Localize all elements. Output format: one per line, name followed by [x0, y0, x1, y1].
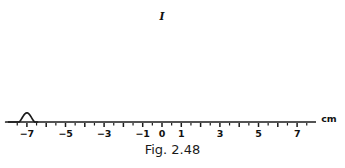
figure-caption: Fig. 2.48 [0, 142, 345, 158]
axis-tick-label: 7 [294, 129, 300, 139]
axis-tick-label: 0 [159, 129, 165, 139]
axis-unit-label: cm [321, 114, 337, 124]
intensity-curve [6, 113, 38, 122]
axis-group [8, 122, 316, 127]
intensity-plot: −7−5−3−101357 I cm [0, 0, 345, 140]
intensity-axis-symbol: I [160, 11, 165, 22]
intensity-plot-svg [0, 0, 345, 140]
axis-tick-label: −1 [136, 129, 150, 139]
axis-tick-label: 3 [217, 129, 223, 139]
axis-tick-label: 1 [178, 129, 184, 139]
axis-tick-marks [17, 123, 307, 127]
axis-tick-label: 5 [255, 129, 261, 139]
figure-container: −7−5−3−101357 I cm Fig. 2.48 [0, 0, 345, 168]
axis-tick-label: −5 [58, 129, 72, 139]
axis-tick-label: −7 [20, 129, 34, 139]
axis-tick-label: −3 [97, 129, 111, 139]
